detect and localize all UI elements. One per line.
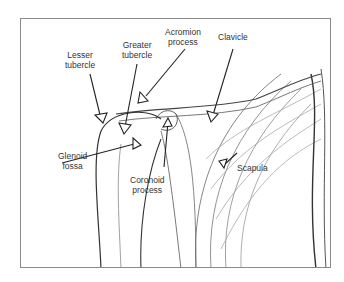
label-line: tubercle [122,51,152,61]
label-coronoid-process: Coronoid process [130,176,165,195]
label-line: process [130,186,165,196]
label-line: process [165,38,201,48]
label-acromion-process: Acromion process [165,28,201,47]
label-lesser-tubercle: Lesser tubercle [65,51,95,70]
label-glenoid-fossa: Glenoid fossa [58,152,87,171]
figure-frame: Lesser tubercle Greater tubercle Acromio… [20,18,331,268]
label-greater-tubercle: Greater tubercle [122,41,152,60]
label-clavicle: Clavicle [218,33,248,43]
label-line: fossa [58,162,87,172]
label-line: Clavicle [218,33,248,43]
label-line: tubercle [65,61,95,71]
label-scapula: Scapula [237,164,268,174]
label-line: Scapula [237,164,268,174]
